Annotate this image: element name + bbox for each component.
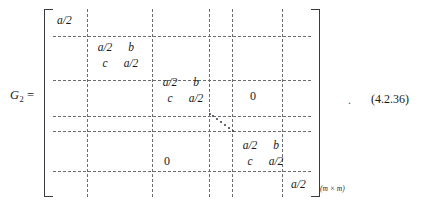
partition-line-vertical-1 xyxy=(87,9,88,197)
block-4-cell-2-2: a/2 xyxy=(263,154,289,170)
matrix-container: a/2 a/2b ca/2 a/2b ca/2 xyxy=(44,9,320,197)
partition-line-vertical-2 xyxy=(152,9,153,197)
matrix-block-3: a/2b ca/2 xyxy=(157,75,209,106)
zero-block-lower-left: 0 xyxy=(164,155,170,168)
left-bracket xyxy=(44,9,53,197)
matrix-symbol: G xyxy=(10,88,19,102)
right-bracket xyxy=(311,9,320,197)
block-3-cell-2-2: a/2 xyxy=(183,91,209,107)
block-2-row-2: ca/2 xyxy=(92,56,144,72)
block-2-cell-1-1: a/2 xyxy=(92,40,118,56)
block-3-row-1: a/2b xyxy=(157,75,209,91)
matrix-size-subscript: (m × m) xyxy=(320,184,345,193)
block-2-cell-2-1: c xyxy=(92,56,118,72)
zero-block-upper-right: 0 xyxy=(250,90,256,103)
equation-figure: G2= a/2 a/2b xyxy=(0,0,424,205)
block-5-value: a/2 xyxy=(291,178,306,190)
block-4-cell-1-2: b xyxy=(263,138,289,154)
block-3-cell-2-1: c xyxy=(157,91,183,107)
block-4-cell-1-1: a/2 xyxy=(237,138,263,154)
partition-line-vertical-4 xyxy=(232,9,233,197)
trailing-period: . xyxy=(348,93,351,108)
matrix-block-1-scalar: a/2 xyxy=(57,14,72,27)
equation-number: (4.2.36) xyxy=(371,92,409,107)
block-3-cell-1-1: a/2 xyxy=(157,75,183,91)
block-4-row-2: ca/2 xyxy=(237,154,289,170)
partition-line-horizontal-3 xyxy=(53,116,311,117)
block-2-cell-2-2: a/2 xyxy=(118,56,144,72)
partition-line-horizontal-5 xyxy=(53,171,311,172)
matrix-block-4: a/2b ca/2 xyxy=(237,138,289,169)
matrix-grid: a/2 a/2b ca/2 a/2b ca/2 xyxy=(53,9,311,197)
block-3-row-2: ca/2 xyxy=(157,91,209,107)
block-2-cell-1-2: b xyxy=(118,40,144,56)
partition-line-vertical-3 xyxy=(209,9,210,197)
diagonal-ellipsis-icon xyxy=(208,112,240,136)
block-1-value: a/2 xyxy=(57,14,72,26)
block-4-cell-2-1: c xyxy=(237,154,263,170)
matrix-name-label: G2= xyxy=(10,88,34,104)
matrix-block-5-scalar: a/2 xyxy=(291,178,306,191)
block-2-row-1: a/2b xyxy=(92,40,144,56)
block-4-row-1: a/2b xyxy=(237,138,289,154)
equals-sign: = xyxy=(24,88,34,102)
block-3-cell-1-2: b xyxy=(183,75,209,91)
partition-line-horizontal-4 xyxy=(53,131,311,132)
matrix-block-2: a/2b ca/2 xyxy=(92,40,144,71)
partition-line-horizontal-1 xyxy=(53,36,311,37)
